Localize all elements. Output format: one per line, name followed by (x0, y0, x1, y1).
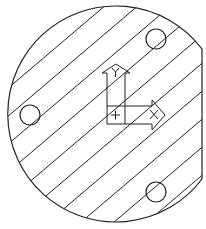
drawing-canvas[interactable] (0, 0, 206, 229)
part-outline[interactable] (8, 6, 202, 222)
hole-left[interactable] (20, 105, 40, 125)
ucs-icon (102, 64, 165, 130)
hatch-pattern (0, 0, 206, 229)
y-label-glyph (112, 68, 119, 77)
x-label-glyph (150, 110, 158, 119)
